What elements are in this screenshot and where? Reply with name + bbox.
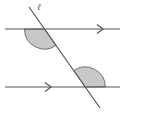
- transversal-label: ℓ: [37, 2, 41, 12]
- transversal-line: [29, 7, 100, 108]
- diagram-canvas: ℓ: [0, 0, 158, 115]
